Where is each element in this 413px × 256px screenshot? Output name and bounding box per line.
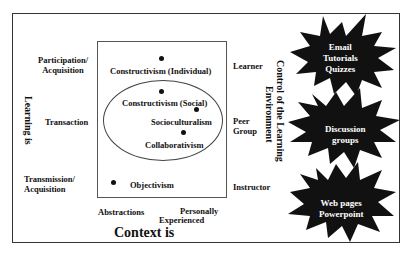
tool-line: groups [325, 135, 366, 146]
tool-line: Discussion [325, 124, 366, 135]
tool-label-web-pages-powerpoint: Web pages Powerpoint [319, 198, 364, 220]
point-label-collaborativism: Collaborativism [145, 140, 204, 150]
tool-line: Powerpoint [319, 209, 364, 220]
point-marker-constructivism-individual [159, 56, 164, 61]
right-level-learner: Learner [233, 61, 263, 71]
tool-line: Quizzes [323, 64, 358, 75]
point-label-constructivism-individual: Constructivism (Individual) [110, 66, 211, 76]
y-level-transmission: Transmission/ Acquisition [24, 174, 75, 194]
right-level-line: Instructor [233, 182, 270, 192]
point-label-socioculturalism: Socioculturalism [151, 117, 212, 127]
tool-line: Web pages [319, 198, 364, 209]
tool-line: Tutorials [323, 53, 358, 64]
x-label-abstractions: Abstractions [98, 207, 144, 217]
y-level-participation: Participation/ Acquisition [38, 55, 88, 75]
x-axis-title: Context is [114, 225, 174, 241]
y-level-line: Transmission/ [24, 174, 75, 184]
right-axis-title-line2: Environment [264, 86, 275, 143]
point-marker-collaborativism [181, 130, 186, 135]
right-level-instructor: Instructor [233, 182, 270, 192]
point-label-objectivism: Objectivism [130, 180, 174, 190]
y-level-transaction: Transaction [45, 117, 88, 127]
tool-label-email-tutorials-quizzes: Email Tutorials Quizzes [323, 42, 358, 75]
tool-line: Email [323, 42, 358, 53]
point-marker-socioculturalism [194, 107, 199, 112]
point-marker-objectivism [111, 180, 116, 185]
y-level-line: Transaction [45, 117, 88, 127]
right-level-line: Group [233, 126, 257, 136]
right-level-peer-group: Peer Group [233, 116, 257, 136]
right-level-line: Peer [233, 116, 257, 126]
right-level-line: Learner [233, 61, 263, 71]
tool-label-discussion-groups: Discussion groups [325, 124, 366, 146]
y-level-line: Participation/ [38, 55, 88, 65]
x-label-experienced: Experienced [159, 215, 204, 225]
y-axis-title: Learning is [23, 96, 34, 145]
right-axis-title-line1: Control of the Learning [275, 60, 286, 162]
y-level-line: Acquisition [24, 184, 75, 194]
y-level-line: Acquisition [38, 65, 88, 75]
point-marker-constructivism-social [159, 89, 164, 94]
